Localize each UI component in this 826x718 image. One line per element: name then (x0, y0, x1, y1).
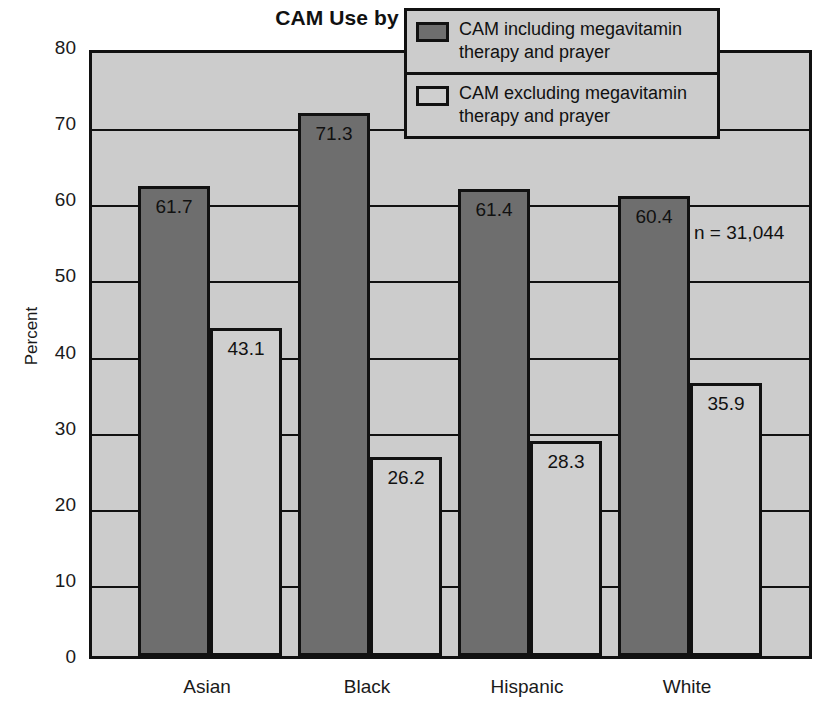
bar-asian-excluding: 43.1 (210, 328, 282, 656)
bar-black-including: 71.3 (298, 113, 370, 656)
y-axis-tick-label: 70 (14, 113, 76, 135)
bar-asian-including: 61.7 (138, 186, 210, 656)
y-axis-tick-label: 60 (14, 189, 76, 211)
bar-value-label: 43.1 (213, 338, 279, 360)
y-axis-tick-label: 0 (14, 646, 76, 668)
sample-size-annotation: n = 31,044 (694, 222, 784, 244)
y-axis-label: Percent (22, 276, 42, 396)
x-axis-label-asian: Asian (135, 676, 279, 698)
legend-label-excluding: CAM excluding megavitamin therapy and pr… (459, 82, 708, 128)
legend-item-excluding: CAM excluding megavitamin therapy and pr… (407, 72, 717, 136)
x-axis-label-hispanic: Hispanic (455, 676, 599, 698)
legend-label-including: CAM including megavitamin therapy and pr… (459, 18, 708, 64)
bar-value-label: 60.4 (621, 206, 687, 228)
legend-swatch-icon-light (416, 86, 449, 106)
bar-value-label: 61.4 (461, 199, 527, 221)
bar-value-label: 26.2 (373, 467, 439, 489)
bar-white-excluding: 35.9 (690, 383, 762, 656)
legend: CAM including megavitamin therapy and pr… (404, 8, 720, 139)
bar-hispanic-excluding: 28.3 (530, 441, 602, 656)
bar-white-including: 60.4 (618, 196, 690, 656)
plot-area: 61.743.171.326.261.428.360.435.9 (89, 50, 812, 659)
y-axis-tick-label: 20 (14, 494, 76, 516)
x-axis-label-black: Black (295, 676, 439, 698)
bar-value-label: 71.3 (301, 123, 367, 145)
legend-swatch-icon-dark (416, 22, 449, 42)
bar-value-label: 35.9 (693, 393, 759, 415)
bar-hispanic-including: 61.4 (458, 189, 530, 656)
y-axis-tick-label: 30 (14, 418, 76, 440)
bar-black-excluding: 26.2 (370, 457, 442, 656)
y-axis-tick-label: 80 (14, 37, 76, 59)
y-axis-tick-label: 10 (14, 570, 76, 592)
bar-value-label: 61.7 (141, 196, 207, 218)
x-axis-label-white: White (615, 676, 759, 698)
bar-value-label: 28.3 (533, 451, 599, 473)
legend-item-including: CAM including megavitamin therapy and pr… (407, 11, 717, 72)
